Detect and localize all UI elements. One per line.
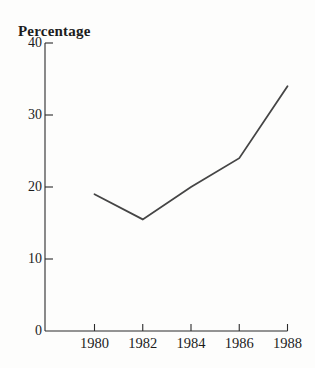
y-tick-label: 30 [0,106,42,124]
x-tick-label: 1986 [215,335,263,351]
x-tick-label: 1980 [71,335,119,351]
x-tick-label: 1982 [119,335,167,351]
plot-area [0,0,315,368]
line-chart-figure: Percentage 010203040 1980198219841986198… [0,0,315,368]
x-tick-label: 1988 [264,335,312,351]
x-tick-label: 1984 [167,335,215,351]
data-series-line [95,86,288,219]
y-tick-label: 20 [0,178,42,196]
y-tick-label: 10 [0,250,42,268]
y-tick-label: 40 [0,34,42,52]
y-tick-label: 0 [0,322,42,340]
